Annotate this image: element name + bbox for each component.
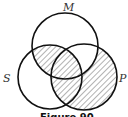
venn-diagram: M S P Figure 90 (0, 0, 128, 117)
label-m: M (62, 1, 75, 14)
label-s: S (3, 72, 11, 85)
label-p: P (118, 72, 127, 85)
figure-caption: Figure 90 (40, 112, 94, 117)
